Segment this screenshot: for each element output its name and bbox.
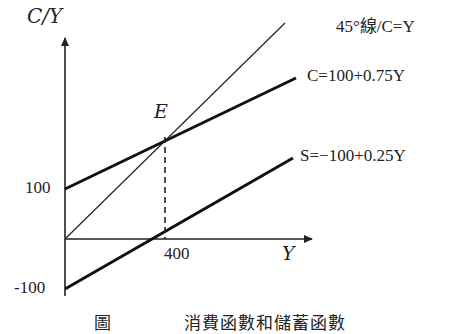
x-tick-400: 400 [164,244,190,264]
y-tick-100: 100 [25,178,51,198]
consumption-line [65,78,296,189]
y-tick-minus-100: -100 [14,278,45,298]
line-45-degree [65,23,285,239]
equilibrium-point-label: E [154,100,168,122]
figure-caption: 圖 消費函數和儲蓄函數 [94,309,346,334]
saving-line-label: S=−100+0.25Y [300,146,406,166]
y-axis-label: C/Y [27,4,62,28]
saving-line [65,158,293,289]
x-axis-label: Y [282,242,295,264]
consumption-line-label: C=100+0.75Y [307,66,405,86]
line-45-label: 45°線/C=Y [336,12,415,37]
